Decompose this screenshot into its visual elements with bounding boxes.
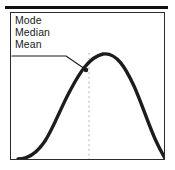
callout-dot-marker <box>84 68 89 73</box>
label-median: Median <box>15 26 50 38</box>
callout-leader-line <box>12 56 85 69</box>
figure-root: Mode Median Mean <box>0 0 175 170</box>
plot-frame: Mode Median Mean <box>10 12 165 160</box>
top-rule-divider <box>5 6 168 9</box>
label-mode: Mode <box>15 14 50 26</box>
label-mean: Mean <box>15 38 50 50</box>
bell-curve-path <box>18 54 165 160</box>
statistics-label-stack: Mode Median Mean <box>15 14 50 50</box>
